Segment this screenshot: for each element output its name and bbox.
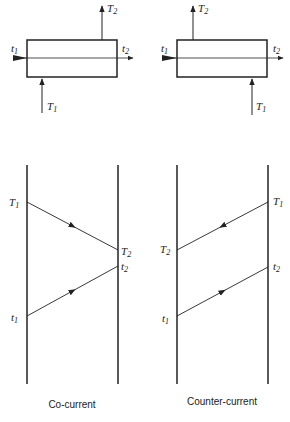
counter-current-profile: T1 T2 t1 t2 — [160, 165, 283, 384]
heat-exchanger-diagram: t1 t2 T2 T1 t1 t2 T2 T1 T1 T2 t1 t2 T1 T… — [0, 0, 290, 422]
label-t1: t1 — [161, 42, 168, 56]
label-T1: T1 — [47, 100, 57, 114]
label-T2: T2 — [107, 2, 117, 16]
label-T2: T2 — [160, 243, 170, 257]
exchanger-box — [177, 40, 267, 77]
label-t1: t1 — [11, 311, 18, 325]
label-t1: t1 — [162, 312, 169, 326]
label-T1: T1 — [273, 195, 283, 209]
co-current-exchanger: t1 t2 T2 T1 — [11, 2, 133, 114]
co-current-profile: T1 T2 t1 t2 — [9, 165, 131, 384]
label-t2: t2 — [121, 260, 128, 274]
label-t2: t2 — [273, 260, 280, 274]
label-t2: t2 — [273, 42, 280, 56]
label-T1: T1 — [256, 100, 266, 114]
caption-counter-current: Counter-current — [187, 396, 257, 407]
hot-stream-line — [27, 202, 118, 250]
label-t1: t1 — [11, 42, 18, 56]
label-T2: T2 — [121, 245, 131, 259]
label-T1: T1 — [9, 196, 19, 210]
cold-stream-line — [177, 267, 268, 316]
hot-stream-line — [177, 202, 268, 250]
label-t2: t2 — [122, 42, 129, 56]
caption-co-current: Co-current — [48, 399, 95, 410]
label-T2: T2 — [198, 2, 208, 16]
cold-stream-line — [27, 266, 118, 316]
exchanger-box — [27, 40, 117, 77]
counter-current-exchanger: t1 t2 T2 T1 — [161, 2, 283, 115]
